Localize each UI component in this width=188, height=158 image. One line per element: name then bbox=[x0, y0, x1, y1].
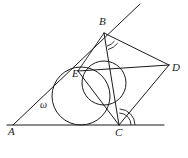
geometry-figure: A B C D E ω bbox=[0, 0, 188, 158]
angle-mark-C-outer bbox=[120, 109, 135, 125]
geometry-canvas bbox=[0, 0, 188, 158]
point-label-A: A bbox=[8, 126, 15, 137]
point-label-D: D bbox=[172, 62, 180, 73]
point-label-B: B bbox=[99, 16, 106, 27]
angle-mark-B-inner bbox=[107, 41, 114, 46]
circle-label-omega: ω bbox=[40, 100, 47, 110]
ray-A-through-B bbox=[13, 4, 140, 125]
segment-E-D bbox=[78, 65, 169, 71]
point-label-E: E bbox=[72, 68, 79, 79]
secondary-circle bbox=[82, 61, 126, 105]
point-label-C: C bbox=[115, 127, 122, 138]
segment-B-D bbox=[104, 33, 169, 65]
angle-mark-B-outer bbox=[108, 43, 118, 49]
segment-E-C bbox=[78, 71, 119, 125]
